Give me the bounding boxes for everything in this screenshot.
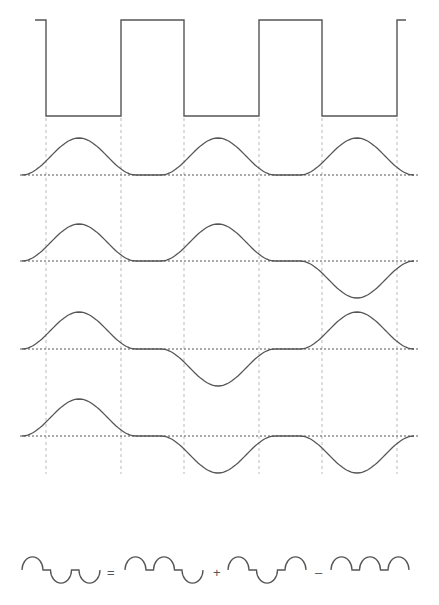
equation-term-1-glyph	[125, 557, 203, 583]
wave-1	[20, 138, 418, 175]
wave-2	[20, 224, 418, 298]
wave-4	[20, 399, 418, 473]
waveform-curve	[22, 138, 414, 175]
square-wave	[35, 20, 406, 116]
equation-term-2-glyph	[228, 557, 306, 583]
equation: = + –	[22, 557, 409, 583]
waveform-rows	[20, 138, 418, 473]
equation-lhs-glyph	[22, 557, 100, 583]
grid-lines	[46, 118, 397, 474]
plus-operator: +	[213, 565, 221, 580]
minus-operator: –	[315, 565, 323, 580]
equation-term-3-glyph	[331, 557, 409, 570]
waveform-diagram: = + –	[0, 0, 439, 605]
wave-3	[20, 312, 418, 386]
equals-operator: =	[107, 565, 115, 580]
